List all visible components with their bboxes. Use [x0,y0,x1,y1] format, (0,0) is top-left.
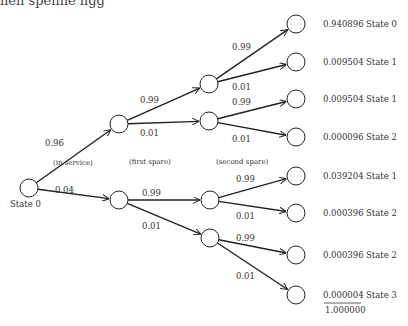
stage-label-in-service: (in service) [53,159,93,167]
edge-probability-label: 0.99 [142,188,161,198]
edge-probability-label: 0.01 [232,134,251,144]
leaf-probability: 0.009504 [323,94,364,104]
leaf-probability: 0.000396 [323,208,364,218]
stage-label-first-spare: (first spare) [129,158,171,166]
leaf-probability: 0.039204 [323,171,364,181]
stage2-node [201,191,219,209]
tree-edge-arrow [127,88,200,120]
edge-probability-label: 0.01 [236,271,255,281]
edge-probability-label: 0.99 [232,97,251,107]
leaf-state-label: State 1 [366,171,397,181]
leaf-node [287,128,305,146]
leaf-state-label: State 2 [366,208,397,218]
stage2-node [201,229,219,247]
edge-probability-label: 0.99 [236,233,255,243]
edge-probability-label: 0.99 [140,95,159,105]
edge-probability-label: 0.01 [236,211,255,221]
root-node [20,179,38,197]
leaf-probability: 0.000004 [323,290,364,300]
root-state-label: State 0 [10,199,41,209]
tree-edge-arrow [218,243,288,290]
probability-tree-diagram: State 0 (in service) (first spare) (seco… [0,0,408,326]
probability-total: 1.000000 [325,305,366,315]
tree-labels: State 0 (in service) (first spare) (seco… [10,19,397,315]
edge-probability-label: 0.01 [142,221,161,231]
edge-probability-label: 0.01 [140,128,159,138]
leaf-state-label: State 3 [366,290,397,300]
edge-probability-label: 0.99 [236,174,255,184]
stage1-node [110,115,128,133]
leaf-probability: 0.940896 [323,19,364,29]
tree-edge-arrow [219,201,286,211]
leaf-node [287,286,305,304]
leaf-node [287,90,305,108]
leaf-node [287,167,305,185]
edge-probability-label: 0.04 [55,185,74,195]
tree-edge-arrow [127,203,200,234]
leaf-state-label: State 1 [366,57,397,67]
edge-probability-label: 0.96 [45,138,64,148]
tree-edge-arrow [218,123,286,136]
tree-edge-arrow [218,101,287,118]
stage2-node [200,75,218,93]
leaf-probability: 0.009504 [323,57,364,67]
stage-label-second-spare: (second spare) [216,158,269,166]
tree-edge-arrow [218,64,287,81]
edge-probability-label: 0.99 [232,42,251,52]
tree-edge-arrow [128,121,199,123]
leaf-node [287,53,305,71]
leaf-state-label: State 0 [366,19,397,29]
leaf-probability: 0.000396 [323,250,364,260]
tree-edge-arrow [216,30,287,79]
leaf-state-label: State 2 [366,250,397,260]
leaf-node [287,15,305,33]
leaf-node [287,246,305,264]
leaf-state-label: State 1 [366,94,397,104]
stage1-node [110,191,128,209]
stage2-node [200,112,218,130]
leaf-node [287,204,305,222]
leaf-probability: 0.000096 [323,132,364,142]
leaf-state-label: State 2 [366,132,397,142]
edge-probability-label: 0.01 [232,82,251,92]
